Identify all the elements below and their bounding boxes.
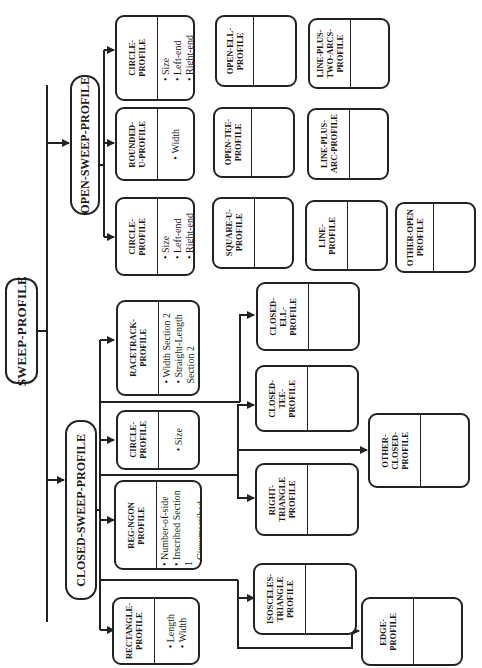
- attribute-item: Width: [170, 129, 182, 160]
- card-title: SQUARE-U- PROFILE: [224, 209, 244, 256]
- card-title: OTHER-OPEN PROFILE: [405, 209, 425, 266]
- card-title: CIRCLE- PROFILE: [128, 421, 148, 459]
- card-title: LINE-PLUS- TWO-ARCS- PROFILE: [315, 29, 345, 79]
- attribute-list: Size Left-end Right-end: [160, 35, 195, 81]
- card-title: CLOSED- TEE- PROFILE: [267, 380, 297, 418]
- card-title: ISOSCELES- TRIANGLE PROFILE: [265, 574, 295, 624]
- attribute-list: Size Left-end Right-end: [160, 213, 195, 259]
- card-title: RACETRACK- PROFILE: [128, 319, 148, 377]
- attribute-item: Inscribed Section 1: [171, 484, 195, 566]
- attribute-list: Size: [173, 428, 185, 451]
- attribute-list: Width: [170, 129, 182, 160]
- card-title: ROUNDED- U-PROFILE: [127, 121, 147, 168]
- open-tee-profile-card: OPEN-TEE- PROFILE: [213, 107, 295, 178]
- rounded-u-profile-card: ROUNDED- U-PROFILE Width: [115, 107, 195, 181]
- line-plus-arc-profile-card: LINE-PLUS- ARC-PROFILE: [307, 108, 389, 180]
- card-title: OTHER- CLOSED- PROFILE: [380, 432, 410, 470]
- sweep-profile-label: SWEEP-PROFILE: [14, 276, 30, 386]
- edge-profile-card: EDGE- PROFILE: [361, 597, 463, 666]
- attribute-item: Size: [160, 213, 172, 259]
- card-title: OPEN-ELL- PROFILE: [225, 28, 245, 74]
- other-closed-profile-card: OTHER- CLOSED- PROFILE: [368, 413, 470, 488]
- racetrack-profile-card: RACETRACK- PROFILE Width Section 2 Strai…: [116, 300, 200, 396]
- closed-circle-profile-card: CIRCLE- PROFILE Size: [116, 410, 200, 470]
- attribute-list: Length Width: [165, 614, 189, 648]
- card-title: LINE-PLUS- ARC-PROFILE: [319, 114, 339, 173]
- closed-ell-profile-card: CLOSED- ELL- PROFILE: [256, 282, 360, 351]
- attribute-item: Straight-Length Section 2: [173, 313, 197, 384]
- card-title: EDGE- PROFILE: [378, 613, 398, 651]
- open-circle-profile-card: CIRCLE- PROFILE Size Left-end Right-end: [115, 15, 195, 101]
- sweep-profile-node: SWEEP-PROFILE: [5, 278, 38, 384]
- card-title: CIRCLE- PROFILE: [127, 39, 147, 77]
- attribute-item: Left-end: [172, 213, 184, 259]
- rectangle-profile-card: RECTANGLE- PROFILE Length Width: [112, 597, 200, 665]
- attribute-item: Total-Length Section 2: [197, 313, 200, 384]
- attribute-item: Width Section 2: [161, 313, 173, 384]
- attribute-item: Number-of-side: [159, 484, 171, 566]
- attribute-item: Length: [165, 614, 177, 648]
- attribute-item: Right-end: [184, 35, 195, 81]
- card-title: OPEN-TEE- PROFILE: [223, 119, 243, 165]
- attribute-item: Circumscribed Section 1: [195, 484, 202, 566]
- other-open-profile-card: OTHER-OPEN PROFILE: [395, 202, 476, 273]
- attribute-list: Number-of-side Inscribed Section 1 Circu…: [159, 484, 202, 566]
- attribute-item: Width: [177, 614, 189, 648]
- attribute-item: Left-end: [172, 35, 184, 81]
- closed-sweep-profile-label: CLOSED-SWEEP-PROFILE: [74, 434, 89, 587]
- card-title: RECTANGLE- PROFILE: [124, 603, 144, 659]
- closed-sweep-profile-node: CLOSED-SWEEP-PROFILE: [65, 420, 97, 600]
- attribute-item: Right-end: [184, 213, 195, 259]
- card-title: CIRCLE- PROFILE: [127, 218, 147, 256]
- open-sweep-profile-node: OPEN-SWEEP-PROFILE: [70, 75, 100, 215]
- line-plus-two-arcs-profile-card: LINE-PLUS- TWO-ARCS- PROFILE: [308, 18, 390, 89]
- attribute-item: Size: [173, 428, 185, 451]
- open-sweep-profile-label: OPEN-SWEEP-PROFILE: [78, 77, 93, 214]
- closed-tee-profile-card: CLOSED- TEE- PROFILE: [255, 365, 359, 432]
- right-triangle-profile-card: RIGHT- TRIANGLE PROFILE: [255, 463, 359, 536]
- isosceles-triangle-profile-card: ISOSCELES- TRIANGLE PROFILE: [253, 563, 357, 635]
- square-u-profile-card: SQUARE-U- PROFILE: [212, 197, 294, 269]
- open-circle-profile-card-2: CIRCLE- PROFILE Size Left-end Right-end: [115, 197, 195, 276]
- attribute-list: Width Section 2 Straight-Length Section …: [161, 313, 200, 384]
- card-title: REG-NGON PROFILE: [126, 502, 146, 549]
- reg-ngon-profile-card: REG-NGON PROFILE Number-of-side Inscribe…: [114, 480, 202, 570]
- card-title: LINE- PROFILE: [317, 217, 337, 255]
- open-ell-profile-card: OPEN-ELL- PROFILE: [215, 15, 297, 87]
- card-title: CLOSED- ELL- PROFILE: [268, 298, 298, 336]
- card-title: RIGHT- TRIANGLE PROFILE: [267, 477, 297, 522]
- attribute-item: Size: [160, 35, 172, 81]
- line-profile-card: LINE- PROFILE: [305, 200, 388, 271]
